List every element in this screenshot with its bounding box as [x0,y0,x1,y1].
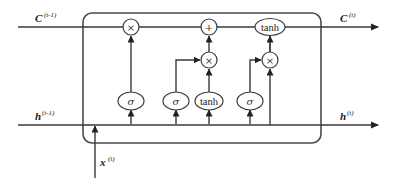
label-h-prev: h (t-1) [35,109,55,122]
forget-gate-node: σ [118,92,144,110]
svg-text:C: C [340,12,348,24]
output-gate-to-mult [250,60,261,93]
svg-text:tanh: tanh [200,96,219,107]
svg-text:(t): (t) [347,109,354,117]
svg-text:x: x [99,156,106,168]
input-gate-node: σ [163,92,189,110]
svg-text:C: C [35,12,43,24]
candidate-node: tanh [195,92,223,110]
svg-text:h: h [35,110,41,122]
multiply-icon: × [266,55,274,66]
svg-text:σ: σ [128,96,136,107]
cell-add-node: + [201,19,217,35]
input-mult-node: × [201,52,217,68]
svg-text:(t-1): (t-1) [44,11,57,19]
output-gate-node: σ [237,92,263,110]
forget-mult-node: × [123,19,139,35]
label-h-next: h (t) [340,109,354,122]
svg-text:(t): (t) [349,11,356,19]
output-mult-node: × [262,52,278,68]
multiply-icon: × [205,55,213,66]
cell-tanh-node: tanh [255,19,285,36]
multiply-icon: × [127,22,135,33]
svg-text:(t-1): (t-1) [42,109,55,117]
svg-text:tanh: tanh [261,22,280,33]
lstm-diagram: × + tanh × × σ σ tanh σ C (t-1) C (t) [0,0,396,187]
label-x-input: x (t) [99,155,115,168]
svg-text:(t): (t) [108,155,115,163]
label-c-next: C (t) [340,11,356,24]
label-c-prev: C (t-1) [35,11,57,24]
svg-text:h: h [340,110,346,122]
svg-text:σ: σ [173,96,181,107]
input-gate-to-mult [176,60,200,93]
svg-text:σ: σ [247,96,255,107]
cell-box [83,13,321,143]
plus-icon: + [205,22,213,33]
